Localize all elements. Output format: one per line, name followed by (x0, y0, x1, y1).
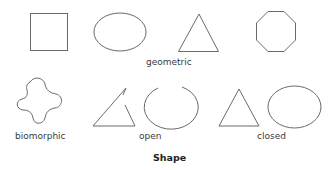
open-triangle-shape (93, 88, 135, 126)
biomorphic-blob-shape (17, 78, 61, 123)
biomorphic-label: biomorphic (15, 131, 66, 141)
shape-diagram (0, 0, 336, 170)
closed-ellipse-shape (268, 86, 321, 128)
open-label: open (139, 131, 161, 141)
diagram-title: Shape (153, 152, 186, 163)
closed-label: closed (257, 131, 286, 141)
closed-triangle-shape (219, 89, 259, 126)
geometric-triangle-shape (179, 14, 219, 52)
square-shape (31, 14, 68, 51)
geometric-ellipse-shape (94, 13, 146, 51)
octagon-shape (257, 12, 296, 52)
open-circle-shape (144, 87, 198, 129)
geometric-label: geometric (146, 57, 192, 67)
